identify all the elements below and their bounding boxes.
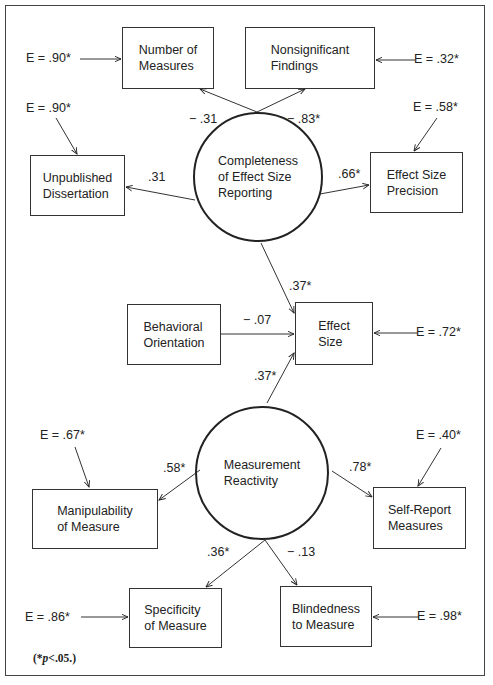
coef-reactivity-blindedness: − .13 [287,545,315,559]
latent-label: Measurement Reactivity [224,457,300,489]
box-label: Nonsignificant Findings [271,42,350,74]
error-self-report-measures: E = .40* [416,428,461,442]
box-label: Number of Measures [139,42,197,74]
error-unpublished-dissertation: E = .90* [26,101,71,115]
error-manipulability-of-measure: E = .67* [40,428,85,442]
box-effect-size: Effect Size [295,302,373,365]
significance-note: (*p<.05.) [33,652,76,664]
box-label: Unpublished Dissertation [43,170,113,202]
coef-reactivity-self-report: .78* [349,460,371,474]
box-self-report-measures: Self-Report Measures [373,487,466,549]
box-manipulability-of-measure: Manipulability of Measure [32,489,158,549]
box-nonsignificant-findings: Nonsignificant Findings [245,27,375,89]
latent-completeness-of-effect-size-reporting: Completeness of Effect Size Reporting [193,112,323,242]
error-specificity-of-measure: E = .86* [25,610,70,624]
box-number-of-measures: Number of Measures [122,27,214,89]
error-blindedness-to-measure: E = .98* [417,609,462,623]
box-blindedness-to-measure: Blindedness to Measure [280,586,372,647]
box-label: Behavioral Orientation [143,319,204,351]
coef-reactivity-specificity: .36* [207,545,229,559]
box-label: Self-Report Measures [388,502,451,534]
error-effect-size: E = .72* [416,325,461,339]
box-label: Effect Size Precision [387,167,447,199]
box-label: Specificity of Measure [144,602,207,634]
latent-measurement-reactivity: Measurement Reactivity [195,406,329,540]
box-label: Blindedness to Measure [292,601,360,633]
box-unpublished-dissertation: Unpublished Dissertation [30,155,125,216]
coef-completeness-nonsignificant-findings: − .83* [287,112,320,126]
error-nonsignificant-findings: E = .32* [414,52,459,66]
error-number-of-measures: E = .90* [26,51,71,65]
coef-completeness-unpublished-dissertation: .31 [148,170,165,184]
coef-reactivity-manipulability: .58* [163,461,185,475]
coef-completeness-effect-size-precision: .66* [338,167,360,181]
coef-completeness-effect-size: .37* [289,279,311,293]
coef-completeness-number-of-measures: − .31 [189,112,217,126]
error-effect-size-precision: E = .58* [413,100,458,114]
box-behavioral-orientation: Behavioral Orientation [127,304,221,365]
box-label: Manipulability of Measure [57,503,133,535]
box-effect-size-precision: Effect Size Precision [370,152,463,213]
box-specificity-of-measure: Specificity of Measure [129,588,222,648]
coef-behavioral-effect-size: − .07 [243,313,271,327]
coef-reactivity-effect-size: .37* [254,369,276,383]
latent-label: Completeness of Effect Size Reporting [218,153,298,201]
box-label: Effect Size [318,318,350,350]
